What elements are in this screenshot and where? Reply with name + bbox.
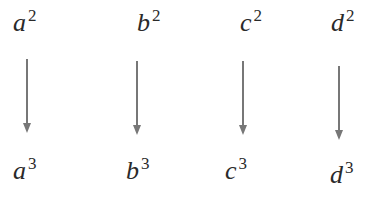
exponent-3: 3 — [345, 158, 354, 177]
term-d-cubed: d3 — [330, 162, 354, 188]
term-a-cubed: a3 — [13, 158, 37, 184]
down-arrow-icon — [334, 66, 344, 142]
down-arrow-icon — [238, 61, 248, 137]
term-b-squared: b2 — [137, 10, 161, 36]
base-c: c — [225, 156, 237, 185]
term-a-squared: a2 — [13, 10, 37, 36]
term-c-cubed: c3 — [225, 158, 247, 184]
base-a: a — [13, 156, 26, 185]
base-d: d — [330, 160, 343, 189]
exponent-2: 2 — [346, 6, 355, 25]
base-a: a — [13, 8, 26, 37]
exponent-3: 3 — [28, 154, 37, 173]
base-b: b — [126, 156, 139, 185]
exponent-2: 2 — [254, 6, 263, 25]
down-arrow-icon — [132, 61, 142, 137]
base-c: c — [240, 8, 252, 37]
exponent-2: 2 — [28, 6, 37, 25]
exponent-2: 2 — [152, 6, 161, 25]
exponent-3: 3 — [239, 154, 248, 173]
base-d: d — [331, 8, 344, 37]
base-b: b — [137, 8, 150, 37]
term-d-squared: d2 — [331, 10, 355, 36]
exponent-3: 3 — [141, 154, 150, 173]
term-b-cubed: b3 — [126, 158, 150, 184]
term-c-squared: c2 — [240, 10, 262, 36]
down-arrow-icon — [22, 59, 32, 135]
